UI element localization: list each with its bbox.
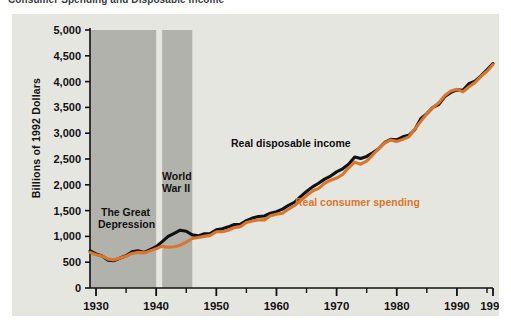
x-tick-label: 1970 <box>324 300 350 312</box>
y-tick-label: 5,000 <box>53 24 81 36</box>
line-chart: 05001,0001,5002,0002,5003,0003,5004,0004… <box>12 14 499 316</box>
x-tick-label: 1950 <box>204 300 230 312</box>
shaded-band-world-war-ii <box>162 30 192 288</box>
annotation-great-depression-line1: The Great <box>101 206 151 218</box>
shaded-band-great-depression <box>90 30 156 288</box>
y-tick-label: 3,500 <box>53 101 81 113</box>
y-tick-label: 500 <box>63 256 81 268</box>
y-tick-label: 4,000 <box>53 76 81 88</box>
plot-panel: Billions of 1992 Dollars 05001,0001,5002… <box>12 14 499 316</box>
y-tick-label: 2,500 <box>53 153 81 165</box>
y-tick-label: 4,500 <box>53 50 81 62</box>
y-tick-label: 2,000 <box>53 179 81 191</box>
figure-root: Consumer Spending and Disposable Income … <box>0 0 511 334</box>
annotation-world-war-ii-line2: War II <box>162 182 190 194</box>
y-tick-label: 0 <box>75 282 81 294</box>
x-tick-label: 1990 <box>444 300 470 312</box>
page-title: Consumer Spending and Disposable Income <box>8 0 224 5</box>
annotation-great-depression-line2: Depression <box>98 218 155 230</box>
y-tick-label: 1,500 <box>53 205 81 217</box>
x-tick-label: 1960 <box>264 300 290 312</box>
chart-title-strip: Consumer Spending and Disposable Income <box>8 0 478 6</box>
y-tick-label: 1,000 <box>53 230 81 242</box>
x-tick-label: 1930 <box>83 300 109 312</box>
x-tick-label: 1980 <box>384 300 410 312</box>
y-tick-label: 3,000 <box>53 127 81 139</box>
series-label-disposable-income: Real disposable income <box>231 137 351 149</box>
annotation-world-war-ii-line1: World <box>162 170 192 182</box>
series-label-consumer-spending: Real consumer spending <box>295 196 420 208</box>
x-tick-label: 1996 <box>480 300 499 312</box>
x-tick-label: 1940 <box>143 300 169 312</box>
